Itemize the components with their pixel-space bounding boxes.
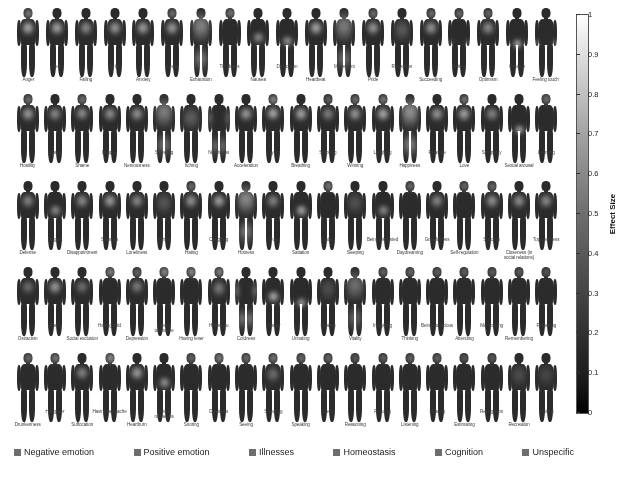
body-map-cell[interactable]: Disappointment (69, 181, 96, 261)
legend-item[interactable]: Negative emotion (14, 447, 94, 457)
body-map-cell[interactable]: Defense (14, 181, 41, 261)
body-map-cell[interactable]: Coughing (205, 181, 232, 261)
legend-item[interactable]: Illnesses (249, 447, 294, 457)
body-map-cell[interactable]: Speaking (287, 353, 314, 433)
body-map-cell[interactable]: Self-regulation (451, 181, 478, 261)
body-map-cell[interactable]: Nervousness (123, 94, 150, 174)
body-map-cell[interactable]: Ostracism (14, 267, 41, 347)
legend-item[interactable]: Positive emotion (134, 447, 210, 457)
body-map-cell[interactable]: Heartburn (123, 353, 150, 433)
body-map-cell[interactable]: Itching (178, 94, 205, 174)
body-map-cell[interactable]: Memorizing (478, 267, 505, 347)
body-map-cell[interactable]: Success (478, 181, 505, 261)
body-map-cell[interactable]: Satiation (287, 181, 314, 261)
body-map-cell[interactable]: Daydreaming (396, 181, 423, 261)
body-map-cell[interactable]: Sweating (260, 353, 287, 433)
body-map-cell[interactable]: Having toothache (150, 267, 177, 347)
body-map-cell[interactable]: Defecation (273, 8, 302, 88)
body-map-cell[interactable]: Succeeding (416, 8, 445, 88)
body-map-cell[interactable]: Depression (123, 267, 150, 347)
body-map-cell[interactable]: Hearing (423, 353, 450, 433)
body-map-cell[interactable]: Recreation (505, 353, 532, 433)
body-map-cell[interactable]: Timidness (215, 8, 244, 88)
body-map-cell[interactable]: Gratefulness (423, 181, 450, 261)
body-map-cell[interactable]: Laughing (369, 94, 396, 174)
body-map-cell[interactable]: Snoring (178, 353, 205, 433)
body-map-cell[interactable]: Anxiety (129, 8, 158, 88)
body-map-cell[interactable]: Social exclusion (69, 267, 96, 347)
body-map-cell[interactable]: Despair (96, 94, 123, 174)
body-map-cell[interactable]: Being conscious (423, 267, 450, 347)
body-map-cell[interactable]: Having fever (178, 267, 205, 347)
body-map-cell[interactable]: Drunkenness (14, 353, 41, 433)
body-map-cell[interactable]: Suffocation (69, 353, 96, 433)
body-map-cell[interactable]: Anger (14, 8, 43, 88)
body-map-cell[interactable]: Healing (314, 267, 341, 347)
body-map-cell[interactable]: Loneliness (123, 181, 150, 261)
body-map-cell[interactable]: Exhaustion (186, 8, 215, 88)
body-map-cell[interactable]: Coldness (232, 267, 259, 347)
body-map-cell[interactable]: Writing (445, 8, 474, 88)
body-map-cell[interactable]: Seeing (314, 353, 341, 433)
body-map-cell[interactable]: Crying (260, 94, 287, 174)
body-map-cell[interactable]: Happiness (396, 94, 423, 174)
body-map-cell[interactable]: Relaxation (388, 8, 417, 88)
body-map-cell[interactable]: Listening (396, 353, 423, 433)
body-map-cell[interactable]: Estimating (451, 353, 478, 433)
body-map-cell[interactable]: Losing (41, 94, 68, 174)
body-map-cell[interactable]: Togetherness (533, 181, 560, 261)
body-map-cell[interactable]: Thinking (396, 267, 423, 347)
body-map-cell[interactable]: Closeness (in social relations) (505, 181, 532, 261)
body-map-cell[interactable]: Hangover (41, 353, 68, 433)
body-map-cell[interactable]: Sadness (96, 181, 123, 261)
body-map-cell[interactable]: Learning (533, 94, 560, 174)
body-map-cell[interactable]: Feeling nauseous (150, 353, 177, 433)
body-map-cell[interactable]: Hostility (14, 94, 41, 174)
body-map-cell[interactable]: Breathing (287, 94, 314, 174)
body-map-cell[interactable]: Love (451, 94, 478, 174)
body-map-cell[interactable]: Tasting (314, 181, 341, 261)
body-map-cell[interactable]: Trust (260, 181, 287, 261)
body-map-cell[interactable]: Grief (100, 8, 129, 88)
legend-item[interactable]: Unspecific (522, 447, 574, 457)
body-map-cell[interactable]: Vitality (342, 267, 369, 347)
body-map-cell[interactable]: Stress (158, 8, 187, 88)
body-map-cell[interactable]: Shivering (150, 94, 177, 174)
body-map-cell[interactable]: Recognition (478, 353, 505, 433)
body-map-cell[interactable]: Urinating (287, 267, 314, 347)
body-map-cell[interactable]: Sympathy (478, 94, 505, 174)
body-map-cell[interactable]: Failing (71, 8, 100, 88)
body-map-cell[interactable]: Waiting (533, 353, 560, 433)
body-map-cell[interactable]: Orgasm (502, 8, 531, 88)
body-map-cell[interactable]: Smoking (314, 94, 341, 174)
body-map-cell[interactable]: Remembering (505, 267, 532, 347)
body-map-cell[interactable]: Seeing (232, 353, 259, 433)
body-map-cell[interactable]: Attending (451, 267, 478, 347)
body-map-cell[interactable]: Having flu (205, 267, 232, 347)
body-map-cell[interactable]: Nausea (244, 8, 273, 88)
body-map-cell[interactable]: Sleeping (342, 181, 369, 261)
body-map-cell[interactable]: Winning (342, 94, 369, 174)
body-map-cell[interactable]: Aching (150, 181, 177, 261)
body-map-cell[interactable]: Hating (178, 181, 205, 261)
body-map-cell[interactable]: Shame (69, 94, 96, 174)
body-map-cell[interactable]: Pleasure (423, 94, 450, 174)
body-map-cell[interactable]: Forgetting (533, 267, 560, 347)
legend-item[interactable]: Homeostasis (333, 447, 395, 457)
body-map-cell[interactable]: Hunger (260, 267, 287, 347)
body-map-cell[interactable]: Being disgusted (369, 181, 396, 261)
body-map-cell[interactable]: Acceleration (232, 94, 259, 174)
body-map-cell[interactable]: Reading (369, 353, 396, 433)
body-map-cell[interactable]: Sexual arousal (505, 94, 532, 174)
body-map-cell[interactable]: Reasoning (342, 353, 369, 433)
body-map-cell[interactable]: Disgust (41, 181, 68, 261)
body-map-cell[interactable]: Having headache (96, 353, 123, 433)
body-map-cell[interactable]: Feeling touch (531, 8, 560, 88)
body-map-cell[interactable]: Numbness (205, 94, 232, 174)
body-map-cell[interactable]: Imagining (369, 267, 396, 347)
body-map-cell[interactable]: Dizziness (205, 353, 232, 433)
body-map-cell[interactable]: Pride (359, 8, 388, 88)
body-map-cell[interactable]: Having cold (96, 267, 123, 347)
legend-item[interactable]: Cognition (435, 447, 483, 457)
body-map-cell[interactable]: Optimism (474, 8, 503, 88)
